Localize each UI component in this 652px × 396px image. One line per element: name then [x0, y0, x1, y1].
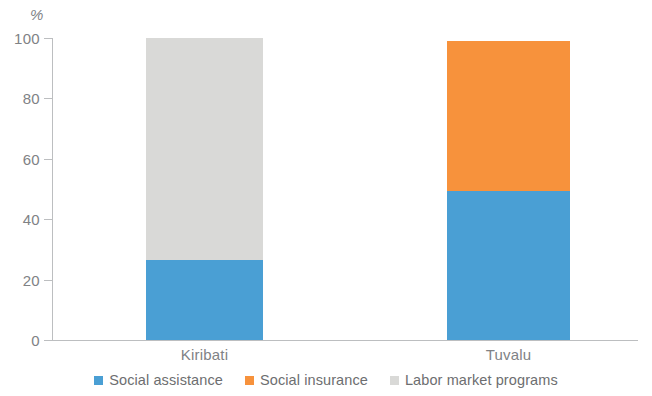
y-axis-tick	[44, 340, 53, 341]
legend-label: Social assistance	[109, 372, 223, 388]
x-axis-label-tuvalu: Tuvalu	[447, 346, 570, 363]
legend-swatch-icon	[390, 376, 399, 385]
legend-swatch-icon	[245, 376, 254, 385]
y-axis-tick-label: 80	[0, 90, 40, 107]
legend-swatch-icon	[94, 376, 103, 385]
y-axis-tick-label: 40	[0, 211, 40, 228]
legend-item-social-assistance[interactable]: Social assistance	[94, 372, 223, 388]
legend-item-labor-market-programs[interactable]: Labor market programs	[390, 372, 558, 388]
y-axis-tick-label: 60	[0, 150, 40, 167]
stacked-bar-chart: % 020406080100 KiribatiTuvalu Social ass…	[0, 0, 652, 396]
plot-area	[52, 38, 638, 340]
x-axis-label-kiribati: Kiribati	[146, 346, 263, 363]
y-axis-tick-label: 100	[0, 30, 40, 47]
x-axis-line	[52, 340, 638, 341]
bar-segment-labor-market-programs	[146, 38, 263, 260]
y-axis-tick-label: 0	[0, 332, 40, 349]
y-axis-unit-label: %	[30, 6, 44, 23]
chart-legend: Social assistanceSocial insuranceLabor m…	[0, 372, 652, 388]
bar-segment-social-assistance	[146, 260, 263, 340]
legend-label: Social insurance	[260, 372, 368, 388]
bar-tuvalu	[447, 38, 570, 340]
bar-segment-social-insurance	[447, 41, 570, 191]
y-axis-tick-label: 20	[0, 271, 40, 288]
bar-kiribati	[146, 38, 263, 340]
legend-label: Labor market programs	[405, 372, 558, 388]
bar-segment-social-assistance	[447, 191, 570, 340]
legend-item-social-insurance[interactable]: Social insurance	[245, 372, 368, 388]
